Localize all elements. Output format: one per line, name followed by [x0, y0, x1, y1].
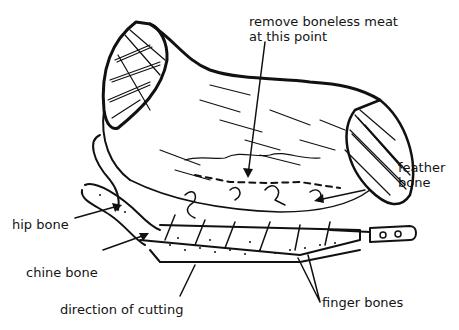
feather-bone-label-line1: feather: [398, 160, 445, 175]
hip-bone-label: hip bone: [12, 217, 69, 232]
remove-meat-label-line2: at this point: [249, 29, 327, 44]
remove-meat-label-line1: remove boneless meat: [249, 14, 398, 29]
feather-bone-hooks: [185, 186, 321, 218]
chine-bone-label: chine bone: [26, 265, 98, 280]
direction-of-cutting-label: direction of cutting: [60, 302, 183, 317]
knife: [330, 226, 416, 242]
left-cut-face: [103, 22, 167, 128]
feather-bone-label-line2: bone: [398, 175, 430, 190]
finger-bones-label: finger bones: [322, 295, 403, 310]
meat-cut-illustration: [0, 0, 459, 330]
backbone: [82, 184, 360, 262]
